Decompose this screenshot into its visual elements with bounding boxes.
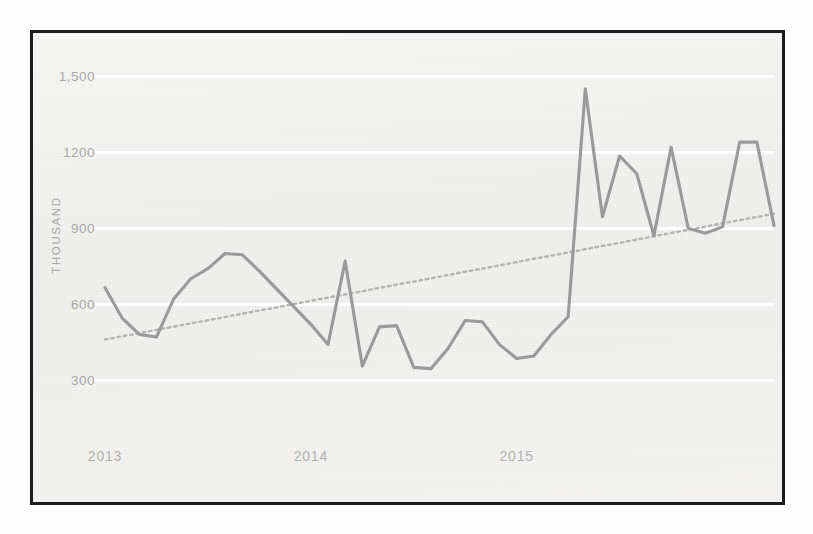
- linear-trend-line: [105, 214, 774, 340]
- monthly-value-line: [105, 89, 774, 369]
- chart-lines-svg: [33, 33, 782, 502]
- chart-plot-area: THOUSAND 30060090012001,500 201320142015: [33, 33, 782, 502]
- chart-figure-frame: THOUSAND 30060090012001,500 201320142015: [30, 30, 785, 505]
- screenshot-page: THOUSAND 30060090012001,500 201320142015: [0, 0, 813, 534]
